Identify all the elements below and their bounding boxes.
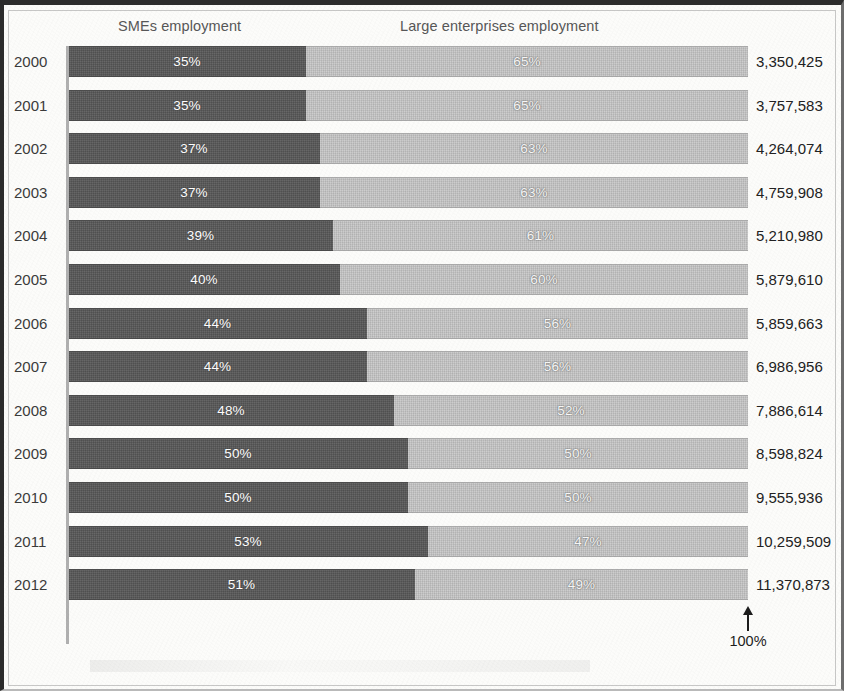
- scan-smudge: [90, 660, 590, 672]
- bar-row: 44%56%: [68, 351, 748, 382]
- bar-segment-label-smes: 40%: [190, 272, 218, 287]
- bar-row: 51%49%: [68, 569, 748, 600]
- bar-segment-large-enterprises: 47%: [428, 526, 748, 557]
- bar-row: 39%61%: [68, 220, 748, 251]
- bar-segment-label-smes: 37%: [180, 141, 208, 156]
- bar-row: 40%60%: [68, 264, 748, 295]
- bar-segment-label-smes: 44%: [204, 316, 232, 331]
- bar-segment-label-smes: 35%: [173, 98, 201, 113]
- legend-label-smes: SMEs employment: [118, 18, 241, 34]
- bar-row: 44%56%: [68, 308, 748, 339]
- bar-segment-large-enterprises: 63%: [320, 133, 748, 164]
- bar-segment-label-smes: 53%: [234, 534, 262, 549]
- legend-label-large-enterprises: Large enterprises employment: [400, 18, 599, 34]
- bar-segment-large-enterprises: 65%: [306, 46, 748, 77]
- bar-segment-label-large-enterprises: 63%: [520, 141, 548, 156]
- total-value-label: 3,757,583: [756, 97, 823, 114]
- bar-row: 53%47%: [68, 526, 748, 557]
- category-label-2006: 2006: [14, 315, 62, 332]
- bar-segment-label-large-enterprises: 61%: [527, 228, 555, 243]
- category-label-2011: 2011: [14, 533, 62, 550]
- bar-segment-label-large-enterprises: 56%: [544, 316, 572, 331]
- plot-area: 35%65%35%65%37%63%37%63%39%61%40%60%44%5…: [68, 46, 748, 644]
- bar-segment-label-large-enterprises: 65%: [513, 54, 541, 69]
- category-label-2003: 2003: [14, 184, 62, 201]
- arrow-stem: [747, 614, 749, 631]
- bar-segment-smes: 50%: [68, 438, 408, 469]
- bar-segment-smes: 44%: [68, 351, 367, 382]
- bar-segment-label-smes: 51%: [228, 577, 256, 592]
- total-value-label: 9,555,936: [756, 489, 823, 506]
- bar-segment-label-large-enterprises: 65%: [513, 98, 541, 113]
- bar-segment-large-enterprises: 60%: [340, 264, 748, 295]
- axis-note-label: 100%: [729, 633, 766, 649]
- total-value-label: 5,879,610: [756, 271, 823, 288]
- bar-segment-smes: 51%: [68, 569, 415, 600]
- category-label-2005: 2005: [14, 271, 62, 288]
- bar-row: 35%65%: [68, 46, 748, 77]
- bar-segment-label-large-enterprises: 56%: [544, 359, 572, 374]
- total-value-label: 5,859,663: [756, 315, 823, 332]
- bar-row: 37%63%: [68, 177, 748, 208]
- total-value-label: 6,986,956: [756, 358, 823, 375]
- bar-segment-label-smes: 50%: [224, 490, 252, 505]
- bar-segment-label-smes: 39%: [187, 228, 215, 243]
- bar-row: 50%50%: [68, 438, 748, 469]
- bar-segment-large-enterprises: 65%: [306, 90, 748, 121]
- bar-segment-large-enterprises: 52%: [394, 395, 748, 426]
- bar-row: 35%65%: [68, 90, 748, 121]
- bar-segment-large-enterprises: 56%: [367, 308, 748, 339]
- bar-segment-smes: 35%: [68, 90, 306, 121]
- axis-end-annotation: 100%: [688, 606, 808, 656]
- bar-segment-label-smes: 37%: [180, 185, 208, 200]
- bar-segment-label-large-enterprises: 50%: [564, 490, 592, 505]
- bar-segment-label-large-enterprises: 47%: [574, 534, 602, 549]
- total-value-label: 7,886,614: [756, 402, 823, 419]
- bar-segment-label-large-enterprises: 50%: [564, 446, 592, 461]
- bar-row: 48%52%: [68, 395, 748, 426]
- chart-page: SMEs employment Large enterprises employ…: [0, 0, 844, 691]
- total-value-label: 10,259,509: [756, 533, 831, 550]
- bar-segment-smes: 50%: [68, 482, 408, 513]
- category-label-2010: 2010: [14, 489, 62, 506]
- bar-segment-smes: 44%: [68, 308, 367, 339]
- bar-segment-label-large-enterprises: 49%: [568, 577, 596, 592]
- category-label-2000: 2000: [14, 53, 62, 70]
- total-value-label: 4,759,908: [756, 184, 823, 201]
- category-label-2008: 2008: [14, 402, 62, 419]
- bar-segment-smes: 53%: [68, 526, 428, 557]
- bar-segment-label-large-enterprises: 60%: [530, 272, 558, 287]
- category-label-2002: 2002: [14, 140, 62, 157]
- value-axis-line: [66, 46, 69, 644]
- total-value-label: 3,350,425: [756, 53, 823, 70]
- total-value-label: 5,210,980: [756, 227, 823, 244]
- category-label-2007: 2007: [14, 358, 62, 375]
- bar-segment-smes: 40%: [68, 264, 340, 295]
- bar-segment-smes: 37%: [68, 133, 320, 164]
- bar-segment-label-smes: 35%: [173, 54, 201, 69]
- category-label-2004: 2004: [14, 227, 62, 244]
- bar-segment-label-smes: 44%: [204, 359, 232, 374]
- bar-segment-large-enterprises: 49%: [415, 569, 748, 600]
- bar-segment-label-large-enterprises: 63%: [520, 185, 548, 200]
- total-value-label: 8,598,824: [756, 445, 823, 462]
- bar-segment-smes: 35%: [68, 46, 306, 77]
- category-label-2012: 2012: [14, 576, 62, 593]
- bar-segment-large-enterprises: 63%: [320, 177, 748, 208]
- bar-segment-large-enterprises: 61%: [333, 220, 748, 251]
- bar-segment-large-enterprises: 56%: [367, 351, 748, 382]
- bar-segment-smes: 39%: [68, 220, 333, 251]
- bar-segment-large-enterprises: 50%: [408, 482, 748, 513]
- total-value-label: 11,370,873: [756, 576, 830, 593]
- category-label-2001: 2001: [14, 97, 62, 114]
- bar-segment-smes: 37%: [68, 177, 320, 208]
- bar-segment-large-enterprises: 50%: [408, 438, 748, 469]
- total-value-label: 4,264,074: [756, 140, 823, 157]
- bar-segment-smes: 48%: [68, 395, 394, 426]
- chart-legend: SMEs employment Large enterprises employ…: [0, 18, 844, 40]
- bar-segment-label-smes: 48%: [217, 403, 245, 418]
- category-label-2009: 2009: [14, 445, 62, 462]
- bar-segment-label-smes: 50%: [224, 446, 252, 461]
- bar-segment-label-large-enterprises: 52%: [557, 403, 585, 418]
- bar-row: 37%63%: [68, 133, 748, 164]
